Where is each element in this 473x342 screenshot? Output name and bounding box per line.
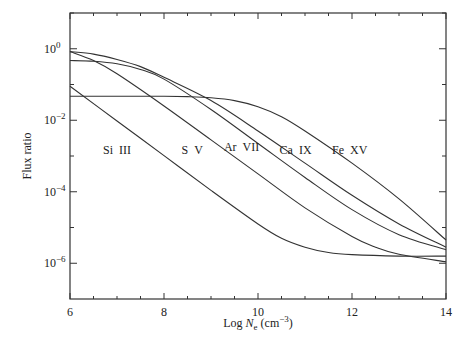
curve-label-ca-ix: Ca IX <box>280 143 312 157</box>
y-tick-label: 100 <box>44 40 61 56</box>
chart: 68101214 10010−210−410−6 Si IIIS VAr VII… <box>0 0 473 342</box>
y-tick-label: 10−2 <box>44 111 66 127</box>
x-tick-label: 6 <box>67 305 73 319</box>
x-axis-ticks: 68101214 <box>67 13 452 319</box>
y-tick-label: 10−6 <box>44 254 66 270</box>
x-tick-label: 12 <box>346 305 358 319</box>
y-axis-title: Flux ratio <box>20 133 34 180</box>
x-tick-label: 8 <box>161 305 167 319</box>
curve-label-fe-xv: Fe XV <box>332 143 368 157</box>
curve-label-s-v: S V <box>182 143 204 157</box>
y-tick-label: 10−4 <box>44 183 66 199</box>
x-tick-label: 14 <box>440 305 452 319</box>
curve-labels: Si IIIS VAr VIICa IXFe XV <box>103 140 368 158</box>
curve-label-si-iii: Si III <box>103 143 131 157</box>
curve-label-ar-vii: Ar VII <box>224 140 259 154</box>
x-axis-title: Log Ne (cm−3) <box>223 314 293 332</box>
